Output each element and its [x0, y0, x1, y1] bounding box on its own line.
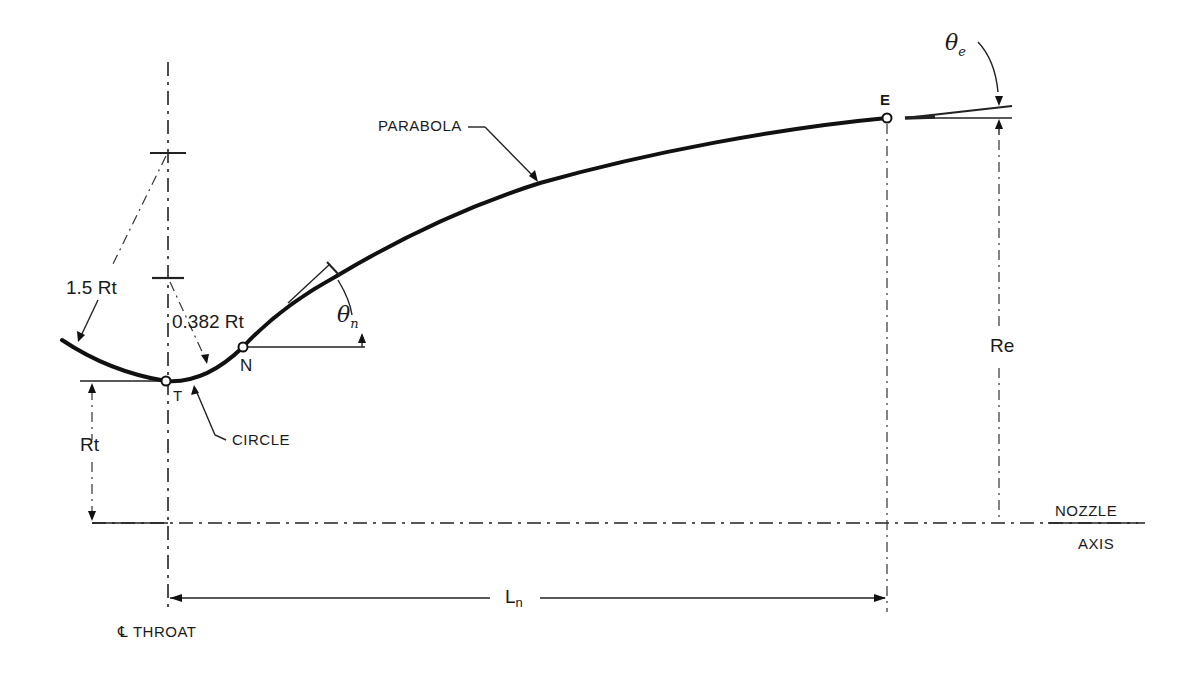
parabola-leader: PARABOLA — [378, 117, 538, 182]
theta-n-symbol: θn — [337, 302, 359, 331]
svg-text:T: T — [173, 387, 182, 404]
svg-text:AXIS: AXIS — [1078, 535, 1114, 552]
nozzle-length-dimension: Ln — [170, 586, 886, 610]
throat-centerline-label: ℄ THROAT — [117, 623, 196, 640]
throat-radius-label: Rt — [80, 434, 100, 455]
downstream-radius-label: 0.382 Rt — [172, 311, 245, 332]
circle-label: CIRCLE — [232, 431, 290, 448]
parabola-label: PARABOLA — [378, 117, 462, 134]
theta-e-angle: θe — [905, 30, 1012, 135]
nozzle-contour-curve — [62, 118, 887, 381]
nozzle-contour-diagram: Rt 1.5 Rt 0.382 Rt θn PARABOLA — [0, 0, 1199, 673]
throat-radius-dimension: Rt — [80, 383, 100, 521]
svg-text:N: N — [240, 356, 252, 375]
nozzle-length-label: Ln — [505, 586, 523, 610]
svg-text:E: E — [880, 91, 890, 108]
svg-text:NOZZLE: NOZZLE — [1055, 502, 1117, 519]
exit-radius-dimension: Re — [990, 140, 1014, 520]
exit-radius-label: Re — [990, 335, 1014, 356]
downstream-radius-leader: 0.382 Rt — [170, 282, 245, 364]
point-E: E — [880, 91, 892, 123]
nozzle-axis-label: NOZZLE AXIS — [1048, 502, 1138, 552]
upstream-radius-leader: 1.5 Rt — [66, 156, 166, 342]
theta-n-angle: θn — [243, 262, 366, 347]
theta-e-symbol: θe — [945, 30, 966, 59]
circle-leader: CIRCLE — [191, 385, 290, 448]
upstream-radius-label: 1.5 Rt — [66, 277, 117, 298]
